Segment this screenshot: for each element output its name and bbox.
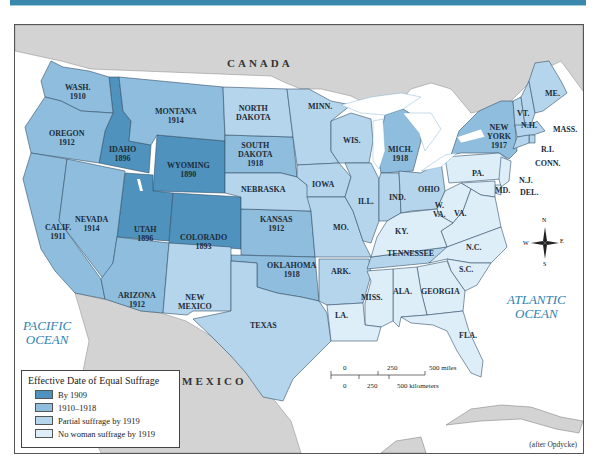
legend-swatch: [35, 416, 53, 425]
scale-km-250: 250: [367, 382, 378, 390]
scale-km-0: 0: [343, 382, 347, 390]
label-ind: IND.: [389, 193, 406, 202]
label-oregon: OREGON 1912: [49, 129, 85, 147]
map-credit: (after Opdycke): [529, 440, 577, 449]
label-pa: PA.: [472, 169, 484, 178]
compass-w: W: [523, 240, 529, 246]
label-mass: MASS.: [553, 125, 577, 134]
scale-km-500: 500 kilometers: [397, 382, 439, 390]
compass-rose: N S E W: [527, 221, 563, 265]
label-nj: N.J.: [519, 176, 533, 185]
label-canada: CANADA: [227, 57, 293, 69]
state-maine: [529, 61, 567, 113]
legend: Effective Date of Equal Suffrage By 1909…: [21, 370, 180, 448]
label-south-dakota: SOUTH DAKOTA 1918: [238, 141, 273, 168]
label-tennessee: TENNESSEE: [387, 249, 434, 258]
label-nevada: NEVADA 1914: [75, 215, 108, 233]
label-miss: MISS.: [361, 293, 383, 302]
label-georgia: GEORGIA: [421, 287, 460, 296]
label-wyoming: WYOMING 1890: [167, 161, 210, 179]
label-mich: MICH. 1918: [388, 145, 413, 163]
legend-swatch: [35, 403, 53, 412]
label-arizona: ARIZONA 1912: [118, 291, 156, 309]
label-montana: MONTANA 1914: [155, 107, 197, 125]
label-utah: UTAH 1896: [134, 225, 157, 243]
legend-item-1910-1918: 1910–1918: [35, 401, 179, 414]
legend-item-by-1909: By 1909: [35, 388, 179, 401]
label-wva: W. VA.: [433, 201, 446, 219]
legend-label: 1910–1918: [58, 403, 96, 413]
label-texas: TEXAS: [250, 321, 277, 330]
legend-item-none: No woman suffrage by 1919: [35, 427, 179, 440]
legend-title: Effective Date of Equal Suffrage: [28, 375, 179, 386]
label-md: MD.: [495, 186, 510, 195]
label-new-mexico: NEW MEXICO: [178, 293, 212, 311]
label-mexico: MEXICO: [182, 375, 246, 387]
compass-e: E: [560, 238, 564, 244]
label-new-york: NEW YORK 1917: [487, 123, 511, 150]
legend-swatch: [35, 429, 53, 438]
label-wis: WIS.: [343, 136, 361, 145]
label-iowa: IOWA: [312, 180, 334, 189]
compass-icon: [527, 221, 563, 265]
label-ky: KY.: [395, 227, 408, 236]
label-sc: S.C.: [459, 265, 473, 274]
legend-label: By 1909: [58, 390, 87, 400]
label-ohio: OHIO: [418, 185, 440, 194]
state-rhode-island: [529, 135, 535, 143]
label-va: VA.: [454, 209, 467, 218]
legend-label: Partial suffrage by 1919: [58, 416, 140, 426]
compass-n: N: [542, 217, 546, 223]
hispaniola-island: [381, 437, 426, 453]
label-me: ME.: [545, 89, 560, 98]
label-ark: ARK.: [331, 267, 351, 276]
label-nc: N.C.: [466, 243, 482, 252]
scale-labels: 0 250 500 miles 0 250 500 kilometers: [331, 364, 461, 404]
label-wash: WASH. 1910: [65, 83, 91, 101]
top-accent-bar: [10, 0, 586, 6]
label-fla: FLA.: [459, 331, 477, 340]
state-pennsylvania: [445, 153, 507, 183]
label-calif: CALIF. 1911: [45, 223, 71, 241]
label-conn: CONN.: [535, 159, 561, 168]
scale-miles-500: 500 miles: [429, 364, 456, 372]
label-ala: ALA.: [393, 287, 412, 296]
label-kansas: KANSAS 1912: [260, 215, 292, 233]
label-del: DEL.: [520, 188, 538, 197]
label-nebraska: NEBRASKA: [241, 185, 285, 194]
legend-label: No woman suffrage by 1919: [58, 429, 155, 439]
legend-item-partial: Partial suffrage by 1919: [35, 414, 179, 427]
cuba-island: [446, 405, 583, 433]
label-pacific-ocean: PACIFIC OCEAN: [23, 319, 71, 347]
label-minn: MINN.: [308, 102, 332, 111]
legend-swatch: [35, 390, 53, 399]
scale-miles-0: 0: [343, 364, 347, 372]
label-la: LA.: [335, 311, 348, 320]
scale-miles-250: 250: [387, 364, 398, 372]
compass-s: S: [543, 261, 546, 267]
label-north-dakota: NORTH DAKOTA: [236, 104, 271, 122]
label-ri: R.I.: [541, 145, 554, 154]
label-colorado: COLORADO 1893: [180, 233, 227, 251]
label-vt: VT.: [517, 109, 530, 118]
map-frame: CANADA MEXICO PACIFIC OCEAN ATLANTIC OCE…: [14, 24, 584, 454]
label-atlantic-ocean: ATLANTIC OCEAN: [507, 293, 566, 321]
label-idaho: IDAHO 1896: [109, 145, 136, 163]
label-ill: ILL.: [358, 197, 374, 206]
state-new-jersey: [499, 157, 511, 187]
label-oklahoma: OKLAHOMA 1918: [267, 261, 316, 279]
label-mo: MO.: [333, 223, 349, 232]
label-nh: N.H.: [521, 121, 537, 130]
